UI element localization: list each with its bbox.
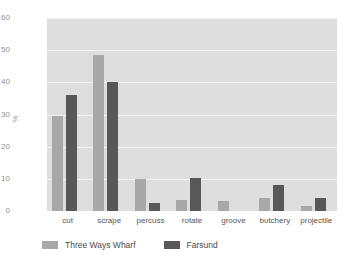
x-tick-label: projectile bbox=[300, 216, 332, 225]
x-tick-label: scrape bbox=[97, 216, 121, 225]
x-tick-label: rotate bbox=[182, 216, 202, 225]
legend-label: Three Ways Wharf bbox=[65, 240, 136, 250]
bar bbox=[273, 185, 284, 211]
bar-group bbox=[47, 18, 88, 211]
bar-chart: % 0102030405060 cutscrapepercussrotategr… bbox=[0, 0, 352, 262]
y-tick-value: 20 bbox=[1, 142, 10, 151]
bar bbox=[190, 178, 201, 211]
bar-group bbox=[296, 18, 337, 211]
bar-group bbox=[130, 18, 171, 211]
y-tick-value: 30 bbox=[1, 110, 10, 119]
bar bbox=[66, 95, 77, 211]
bar bbox=[52, 116, 63, 211]
bar-group bbox=[213, 18, 254, 211]
bar bbox=[315, 198, 326, 212]
y-tick-value: 10 bbox=[1, 174, 10, 183]
x-tick-label: percuss bbox=[137, 216, 165, 225]
bar bbox=[218, 201, 229, 211]
bar bbox=[135, 179, 146, 211]
bar bbox=[301, 206, 312, 211]
legend-item[interactable]: Three Ways Wharf bbox=[42, 240, 136, 250]
y-tick-value: 60 bbox=[1, 13, 10, 22]
y-tick-value: 0 bbox=[6, 206, 10, 215]
legend-label: Farsund bbox=[187, 240, 218, 250]
y-axis-label: % bbox=[9, 112, 23, 126]
plot-area bbox=[47, 18, 337, 211]
bar bbox=[149, 203, 160, 211]
legend: Three Ways WharfFarsund bbox=[42, 240, 218, 250]
y-tick-value: 50 bbox=[1, 45, 10, 54]
bar bbox=[93, 55, 104, 211]
legend-swatch bbox=[164, 241, 180, 249]
x-tick-label: butchery bbox=[260, 216, 291, 225]
bar bbox=[259, 198, 270, 211]
legend-swatch bbox=[42, 241, 58, 249]
x-tick-label: groove bbox=[221, 216, 245, 225]
bar-group bbox=[88, 18, 129, 211]
legend-item[interactable]: Farsund bbox=[164, 240, 218, 250]
bar bbox=[176, 200, 187, 211]
y-tick-value: 40 bbox=[1, 77, 10, 86]
bar-group bbox=[171, 18, 212, 211]
bar bbox=[107, 82, 118, 211]
bar-group bbox=[254, 18, 295, 211]
x-tick-label: cut bbox=[62, 216, 73, 225]
